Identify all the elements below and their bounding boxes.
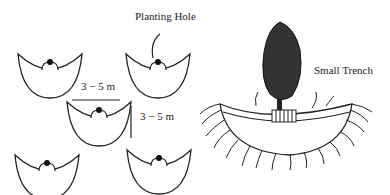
diagram-canvas bbox=[0, 0, 390, 195]
tree-crown bbox=[263, 22, 301, 100]
planting-hole-pointer bbox=[152, 34, 160, 58]
planting-hole-middle bbox=[67, 102, 131, 146]
vertical-spacing-label: 3 − 5 m bbox=[140, 110, 174, 122]
small-trench bbox=[200, 22, 372, 170]
planting-hole-top-right bbox=[126, 54, 190, 98]
horizontal-spacing-label: 3 − 5 m bbox=[81, 80, 115, 92]
planting-hole-bottom-right bbox=[127, 150, 191, 194]
planting-hole-label: Planting Hole bbox=[135, 10, 196, 22]
planting-hole-bottom-left bbox=[15, 155, 79, 195]
planting-hole-top-left bbox=[18, 54, 82, 98]
small-trench-label: Small Trench bbox=[314, 64, 373, 76]
